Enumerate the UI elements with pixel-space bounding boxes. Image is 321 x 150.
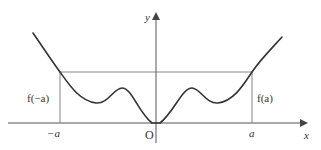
tick-label-pos-a: a xyxy=(249,128,255,139)
tick-label-neg-a: −a xyxy=(47,128,60,139)
annotation-f-neg-a: f(−a) xyxy=(27,93,49,104)
origin-label: O xyxy=(145,129,154,141)
y-axis-label: y xyxy=(145,12,150,23)
x-axis-label: x xyxy=(304,130,309,141)
annotation-f-pos-a: f(a) xyxy=(257,93,273,104)
function-curve xyxy=(33,33,282,123)
